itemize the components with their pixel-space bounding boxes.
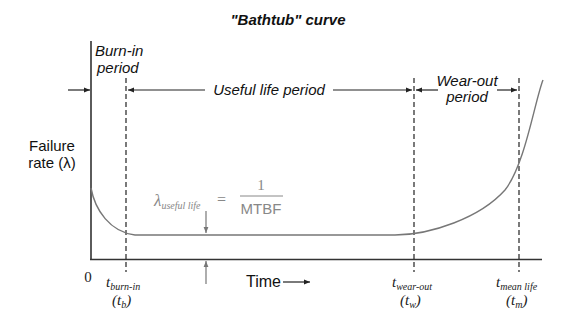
y-axis-label-line1: Failure [29,137,75,154]
bathtub-diagram: "Bathtub" curve Burn-in period Useful li… [0,0,566,317]
diagram-title: "Bathtub" curve [230,11,345,28]
burn-in-label-line2: period [96,59,139,76]
tick-burn-in: tburn-in [106,274,140,292]
tick-wear-out-abbrev: (tw) [400,292,421,310]
lambda-symbol: λ [153,191,161,210]
wear-out-label-line1: Wear-out [436,72,498,89]
tick-mean-life: tmean life [496,274,538,292]
x-axis-label: Time [246,273,281,290]
y-axis-label-line2: rate (λ) [28,154,76,171]
useful-life-label: Useful life period [213,81,325,98]
wear-out-label-line2: period [445,88,488,105]
tick-wear-out: twear-out [392,274,432,292]
formula-lambda: λuseful life [153,191,201,211]
origin-label: 0 [84,269,92,285]
burn-in-label-line1: Burn-in [95,42,143,59]
formula-numerator: 1 [257,177,265,193]
tick-mean-life-abbrev: (tm) [506,292,527,310]
formula-denominator: MTBF [241,200,282,217]
tick-burn-in-abbrev: (tb) [112,292,131,310]
lambda-subscript: useful life [161,200,201,211]
formula-equals: = [217,191,226,208]
